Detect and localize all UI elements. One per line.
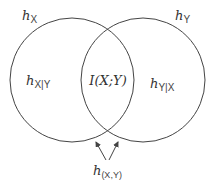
label-hy-given-x: hY|X <box>150 76 175 93</box>
venn-diagram: hX hY hX|Y I(X;Y) hY|X h(X,Y) <box>0 0 216 185</box>
arrow-left <box>96 142 106 160</box>
label-mutual-information: I(X;Y) <box>88 73 127 88</box>
label-hx: hX <box>22 8 37 25</box>
arrow-right <box>109 142 118 160</box>
label-hy: hY <box>175 8 190 25</box>
label-joint-entropy: h(X,Y) <box>93 163 122 180</box>
label-hx-given-y: hX|Y <box>26 73 51 90</box>
